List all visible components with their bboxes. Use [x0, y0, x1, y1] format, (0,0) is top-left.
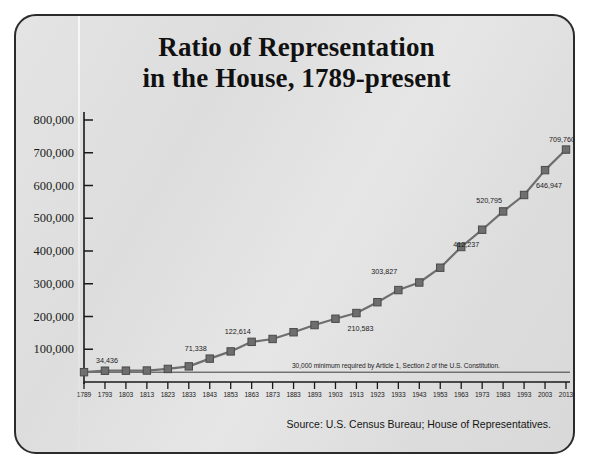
x-axis-label: 1843: [203, 391, 217, 398]
x-axis-label: 1789: [77, 391, 91, 398]
data-point-marker[interactable]: [478, 226, 485, 233]
x-axis-label: 1883: [286, 391, 300, 398]
chart-svg: [16, 16, 575, 454]
x-axis-label: 1803: [119, 391, 133, 398]
data-point-label: 122,614: [225, 327, 251, 336]
data-point-marker[interactable]: [143, 367, 150, 374]
data-point-marker[interactable]: [269, 335, 276, 342]
source-credit: Source: U.S. Census Bureau; House of Rep…: [287, 418, 551, 430]
data-point-marker[interactable]: [499, 208, 506, 215]
x-axis-label: 1943: [412, 391, 426, 398]
data-point-label: 71,338: [185, 344, 207, 353]
data-point-label: 646,947: [536, 181, 562, 190]
x-axis-label: 1863: [245, 391, 259, 398]
data-point-marker[interactable]: [122, 367, 129, 374]
data-point-label: 412,237: [453, 240, 479, 249]
data-point-marker[interactable]: [353, 309, 360, 316]
data-point-marker[interactable]: [164, 365, 171, 372]
data-point-label: 709,760: [549, 135, 575, 144]
data-point-marker[interactable]: [395, 286, 402, 293]
y-axis-label: 600,000: [16, 178, 74, 193]
data-point-label: 520,795: [476, 196, 502, 205]
x-axis-label: 1813: [140, 391, 154, 398]
data-point-label: 34,436: [96, 356, 118, 365]
data-point-marker[interactable]: [101, 367, 108, 374]
data-point-marker[interactable]: [80, 368, 87, 375]
data-point-marker[interactable]: [290, 329, 297, 336]
x-axis-label: 1953: [433, 391, 447, 398]
data-point-marker[interactable]: [374, 298, 381, 305]
y-axis-label: 800,000: [16, 113, 74, 128]
y-axis-label: 200,000: [16, 309, 74, 324]
x-axis-label: 1823: [161, 391, 175, 398]
x-axis-label: 1933: [391, 391, 405, 398]
data-point-marker[interactable]: [185, 363, 192, 370]
chart-plot-area: 100,000200,000300,000400,000500,000600,0…: [16, 16, 575, 454]
data-series-line: [84, 150, 566, 373]
x-axis-label: 1923: [370, 391, 384, 398]
data-point-marker[interactable]: [248, 338, 255, 345]
chart-card: Ratio of Representation in the House, 17…: [14, 14, 575, 454]
data-point-marker[interactable]: [520, 191, 527, 198]
data-point-marker[interactable]: [562, 146, 569, 153]
x-axis-label: 1993: [517, 391, 531, 398]
y-axis-label: 400,000: [16, 244, 74, 259]
data-point-label: 210,583: [347, 324, 373, 333]
y-axis-label: 700,000: [16, 145, 74, 160]
x-axis-label: 1903: [328, 391, 342, 398]
x-axis-label: 2013: [559, 391, 573, 398]
y-axis-label: 500,000: [16, 211, 74, 226]
x-axis-label: 1913: [349, 391, 363, 398]
data-point-marker[interactable]: [227, 348, 234, 355]
data-point-marker[interactable]: [541, 166, 548, 173]
data-point-label: 303,827: [371, 267, 397, 276]
x-axis-label: 1793: [98, 391, 112, 398]
x-axis-label: 1853: [224, 391, 238, 398]
x-axis-label: 1893: [307, 391, 321, 398]
data-point-marker[interactable]: [332, 315, 339, 322]
x-axis-label: 1963: [454, 391, 468, 398]
slide-canvas: Ratio of Representation in the House, 17…: [0, 0, 593, 470]
x-axis-label: 1983: [496, 391, 510, 398]
x-axis-label: 1873: [265, 391, 279, 398]
data-point-marker[interactable]: [416, 279, 423, 286]
x-axis-label: 1973: [475, 391, 489, 398]
data-point-marker[interactable]: [437, 264, 444, 271]
data-point-marker[interactable]: [206, 355, 213, 362]
x-axis-label: 1833: [182, 391, 196, 398]
y-axis-label: 100,000: [16, 342, 74, 357]
x-axis-label: 2003: [538, 391, 552, 398]
y-axis-label: 300,000: [16, 276, 74, 291]
reference-line-annotation: 30,000 minimum required by Article 1, Se…: [292, 362, 500, 369]
data-point-marker[interactable]: [311, 321, 318, 328]
